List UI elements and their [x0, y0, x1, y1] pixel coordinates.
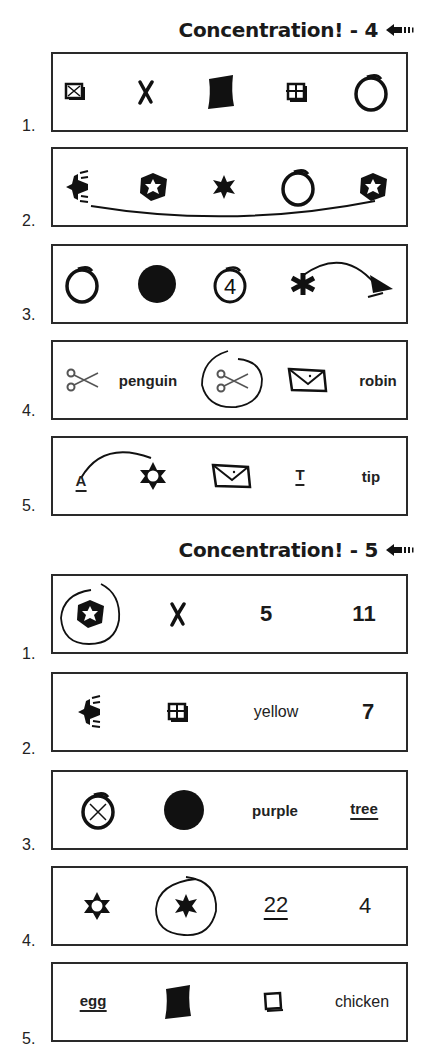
- open-circle-icon: [351, 70, 391, 114]
- circled-hexagon-star: [55, 580, 123, 648]
- x-mark-icon: [137, 79, 155, 105]
- section-title-text: Concentration! - 5: [179, 538, 379, 562]
- filled-circle-icon: [163, 789, 205, 831]
- open-circle-icon: [278, 165, 318, 209]
- word-tree: tree: [350, 800, 378, 820]
- exercise-row: [51, 52, 408, 132]
- left-arrow-icon: [386, 23, 416, 37]
- window-grid-icon: [285, 81, 309, 103]
- row-number: 4.: [22, 402, 35, 420]
- number-5: 5: [260, 601, 272, 627]
- exercise-row: A T tip: [51, 436, 408, 516]
- asterisk-icon: [287, 270, 319, 298]
- row-number: 3.: [22, 836, 35, 854]
- exercise-row: 5 11: [51, 574, 408, 654]
- circled-x-icon: [78, 788, 118, 832]
- word-yellow: yellow: [254, 703, 298, 721]
- envelope-icon: [210, 462, 252, 490]
- circled-filled-star: [152, 873, 220, 939]
- circled-number: 4: [210, 262, 250, 306]
- row-number: 2.: [22, 740, 35, 758]
- section-title: Concentration! - 4: [179, 15, 417, 45]
- exercise-row: [51, 147, 408, 227]
- row-number: 5.: [22, 497, 35, 515]
- filled-square-icon: [206, 74, 236, 110]
- section-title-text: Concentration! - 4: [179, 18, 379, 42]
- row-number: 1.: [22, 645, 35, 663]
- circled-number-text: 4: [224, 274, 236, 300]
- triangle-icon: [365, 269, 395, 299]
- row-number: 5.: [22, 1030, 35, 1048]
- word-purple: purple: [252, 802, 298, 819]
- outline-star-icon: [138, 461, 168, 491]
- window-grid-icon: [166, 701, 190, 723]
- airplane-icon: [76, 692, 106, 732]
- hexagon-star-icon: [136, 171, 170, 203]
- filled-circle-icon: [137, 264, 177, 304]
- scissors-icon: [66, 368, 100, 392]
- exercise-row: 4: [51, 244, 408, 324]
- word-chicken: chicken: [335, 993, 389, 1011]
- number-7: 7: [362, 699, 374, 725]
- exercise-row: yellow 7: [51, 672, 408, 752]
- exercise-row: purple tree: [51, 770, 408, 850]
- crossed-box-icon: [64, 82, 86, 102]
- section-title: Concentration! - 5: [179, 535, 417, 565]
- row-number: 4.: [22, 932, 35, 950]
- filled-square-icon: [163, 983, 193, 1021]
- circled-scissors: [198, 347, 268, 413]
- row-number: 3.: [22, 306, 35, 324]
- number-11: 11: [352, 601, 375, 627]
- number-22: 22: [264, 892, 288, 920]
- word-robin: robin: [359, 372, 397, 389]
- word-penguin: penguin: [119, 372, 177, 389]
- row-number: 1.: [22, 117, 35, 135]
- filled-star-icon: [211, 174, 237, 200]
- word-tip: tip: [362, 468, 380, 485]
- hexagon-star-icon: [356, 171, 390, 203]
- exercise-row: egg chicken: [51, 962, 408, 1042]
- word-egg: egg: [80, 992, 107, 1012]
- airplane-icon: [64, 170, 94, 204]
- envelope-icon: [286, 366, 328, 394]
- exercise-row: penguin robin: [51, 340, 408, 420]
- row-number: 2.: [22, 212, 35, 230]
- outline-star-icon: [82, 891, 112, 921]
- open-square-icon: [262, 990, 286, 1014]
- letter-t: T: [295, 466, 304, 486]
- number-4: 4: [359, 893, 371, 919]
- letter-a: A: [76, 472, 87, 492]
- left-arrow-icon: [386, 543, 416, 557]
- open-circle-icon: [62, 262, 102, 306]
- x-mark-icon: [169, 601, 187, 627]
- exercise-row: 22 4: [51, 866, 408, 946]
